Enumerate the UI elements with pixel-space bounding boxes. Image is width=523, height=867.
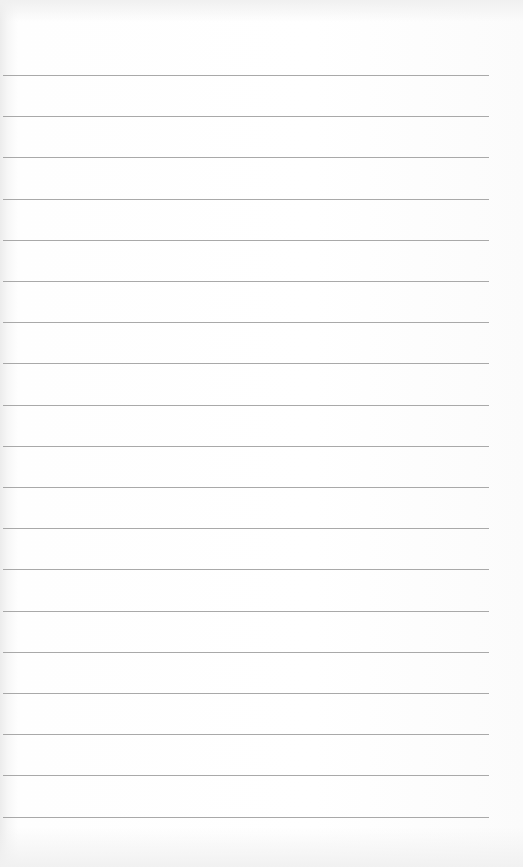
ruled-line — [3, 405, 489, 406]
ruled-line — [3, 157, 489, 158]
ruled-line — [3, 611, 489, 612]
bottom-shadow — [0, 827, 523, 867]
ruled-line — [3, 693, 489, 694]
ruled-line — [3, 322, 489, 323]
ruled-line — [3, 734, 489, 735]
ruled-line — [3, 116, 489, 117]
ruled-line — [3, 775, 489, 776]
ruled-line — [3, 569, 489, 570]
ruled-line — [3, 281, 489, 282]
ruled-line — [3, 652, 489, 653]
ruled-line — [3, 446, 489, 447]
ruled-line — [3, 199, 489, 200]
ruled-line — [3, 363, 489, 364]
ruled-line — [3, 528, 489, 529]
top-shadow — [0, 0, 523, 22]
ruled-line — [3, 240, 489, 241]
ruled-line — [3, 817, 489, 818]
ruled-line — [3, 487, 489, 488]
ruled-line — [3, 75, 489, 76]
lined-paper-sheet — [0, 0, 523, 867]
